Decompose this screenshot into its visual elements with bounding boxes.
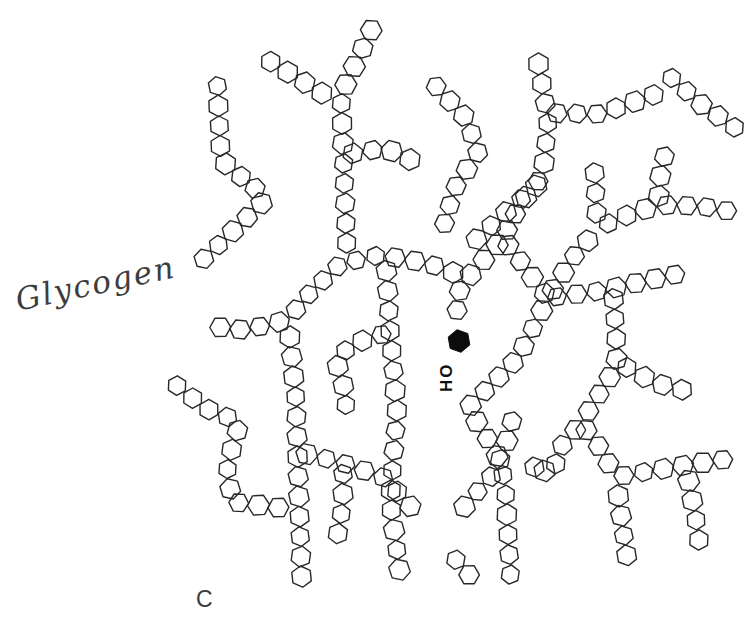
glucose-unit bbox=[337, 395, 354, 414]
glucose-unit bbox=[533, 73, 551, 94]
glucose-unit bbox=[317, 449, 335, 468]
glucose-unit bbox=[338, 233, 356, 253]
glucose-chain-reducing-chain bbox=[447, 281, 470, 319]
glucose-unit bbox=[426, 77, 446, 95]
reducing-end-ho-label: HO bbox=[437, 363, 457, 393]
glucose-chain-r-bottom-arm bbox=[614, 451, 733, 485]
glucose-unit bbox=[291, 546, 310, 567]
glucose-unit bbox=[459, 566, 480, 584]
glucose-unit bbox=[607, 98, 625, 119]
glucose-unit bbox=[644, 85, 663, 106]
glucose-unit bbox=[222, 439, 242, 460]
glucose-unit bbox=[634, 366, 654, 387]
glucose-chain-r-stub bbox=[525, 457, 555, 482]
glucose-unit bbox=[435, 214, 455, 232]
glucose-unit bbox=[381, 140, 403, 161]
glucose-chain-b-squiggle bbox=[328, 465, 353, 544]
glucose-unit bbox=[599, 368, 621, 387]
glucose-unit bbox=[618, 205, 636, 226]
glucose-unit bbox=[363, 141, 382, 160]
glucose-unit bbox=[328, 257, 347, 276]
glucose-unit bbox=[539, 113, 556, 133]
glucose-unit bbox=[499, 525, 517, 545]
glucose-unit bbox=[334, 465, 352, 484]
glucose-unit bbox=[624, 91, 645, 113]
glucose-unit bbox=[286, 300, 305, 319]
glucose-unit bbox=[440, 196, 460, 215]
glucose-chain-left-vertical bbox=[208, 77, 265, 198]
glucose-unit bbox=[586, 183, 604, 202]
glucose-unit bbox=[578, 402, 599, 420]
glucose-unit bbox=[500, 545, 518, 565]
glucose-unit bbox=[456, 159, 477, 179]
glucose-unit bbox=[697, 198, 716, 217]
glucose-unit bbox=[248, 495, 270, 515]
glucose-unit bbox=[614, 467, 634, 485]
glucose-chain-topright-diag bbox=[663, 69, 743, 138]
glucose-unit bbox=[237, 208, 258, 228]
glucose-chain-left-downleft bbox=[194, 193, 272, 269]
reducing-end-hexagon bbox=[448, 330, 470, 353]
glucose-unit bbox=[245, 178, 265, 198]
glucose-chain-mid-trunk bbox=[376, 261, 410, 581]
glucose-unit bbox=[262, 51, 280, 72]
glucose-unit bbox=[635, 199, 657, 220]
glucose-unit bbox=[521, 268, 543, 287]
glucose-unit bbox=[383, 519, 404, 540]
glucose-unit bbox=[655, 147, 675, 166]
glucose-unit bbox=[210, 318, 231, 336]
glucose-unit bbox=[497, 504, 516, 526]
glucose-unit bbox=[343, 57, 365, 77]
glucose-unit bbox=[663, 69, 681, 88]
glucose-chain-center-right-arm bbox=[547, 85, 663, 123]
glucose-unit bbox=[687, 510, 704, 530]
glucose-chain-top-vertical bbox=[332, 21, 382, 254]
glucose-unit bbox=[333, 133, 354, 155]
glucose-chain-r-downleft bbox=[547, 421, 586, 474]
glucose-chain-top-diag-branch bbox=[262, 51, 332, 104]
glucose-unit bbox=[332, 94, 350, 114]
glucose-unit bbox=[548, 288, 567, 306]
glucose-unit bbox=[526, 175, 547, 197]
glucose-unit bbox=[284, 366, 304, 388]
glucose-chain-b-trunk bbox=[280, 326, 311, 587]
glucose-unit bbox=[677, 197, 697, 215]
glucose-unit bbox=[384, 441, 404, 461]
glucose-chain-right-arm bbox=[618, 358, 691, 401]
glucose-chain-r-vert2 bbox=[678, 471, 708, 551]
glucose-unit bbox=[336, 193, 355, 213]
glucose-unit bbox=[598, 454, 619, 473]
glucose-unit bbox=[380, 301, 398, 321]
glucose-unit bbox=[387, 400, 406, 421]
glucose-unit bbox=[578, 230, 598, 252]
glucose-unit bbox=[300, 285, 318, 303]
glucose-unit bbox=[447, 550, 465, 569]
glucose-unit bbox=[208, 77, 226, 96]
glycogen-diagram: Glycogen HO C bbox=[0, 0, 756, 621]
glucose-unit bbox=[497, 485, 514, 504]
glucose-unit bbox=[462, 124, 481, 144]
glucose-unit bbox=[606, 277, 627, 298]
glucose-unit bbox=[378, 281, 398, 302]
glucose-unit bbox=[587, 282, 606, 301]
glucose-unit bbox=[645, 269, 666, 289]
glucose-unit bbox=[565, 247, 585, 265]
glucose-unit bbox=[547, 454, 565, 474]
glucose-unit bbox=[389, 559, 411, 580]
glucose-unit bbox=[606, 309, 624, 329]
glucose-unit bbox=[219, 460, 236, 479]
glucose-unit bbox=[468, 483, 487, 500]
glucose-unit bbox=[486, 446, 508, 467]
glucose-unit bbox=[486, 235, 508, 255]
glucose-unit bbox=[210, 236, 228, 255]
glucose-unit bbox=[588, 437, 608, 455]
glucose-unit bbox=[291, 527, 309, 546]
glucose-unit bbox=[353, 38, 373, 58]
glucose-unit bbox=[447, 301, 467, 320]
glucose-unit bbox=[194, 249, 214, 268]
glucose-unit bbox=[230, 320, 251, 339]
glucose-unit bbox=[615, 526, 634, 545]
glucose-unit bbox=[281, 347, 302, 368]
glucose-unit bbox=[482, 467, 501, 486]
glucose-unit bbox=[381, 321, 399, 341]
